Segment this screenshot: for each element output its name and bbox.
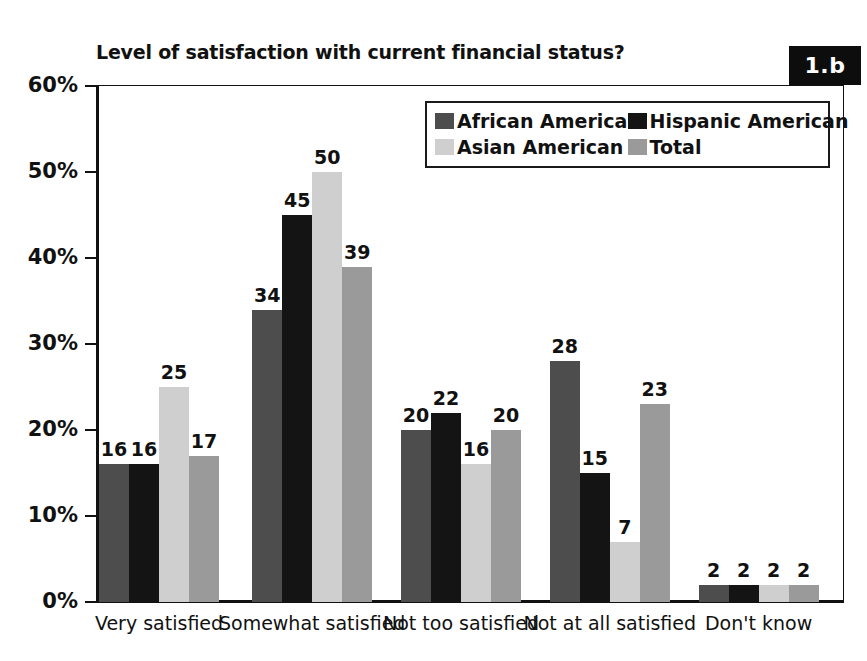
bar[interactable] [461, 464, 491, 602]
legend-item[interactable]: Asian American [435, 134, 628, 160]
y-axis-tick-label: 20% [28, 417, 78, 441]
bar[interactable] [312, 172, 342, 602]
bar-chart-figure: Level of satisfaction with current finan… [0, 0, 867, 661]
y-axis-tick-label: 60% [28, 73, 78, 97]
x-axis-category-label: Somewhat satisfied [219, 612, 405, 634]
legend-color-swatch-icon [435, 113, 454, 129]
y-axis-tick-label: 30% [28, 331, 78, 355]
legend-item[interactable]: Total [628, 134, 821, 160]
bar[interactable] [129, 464, 159, 602]
x-axis-category-label: Very satisfied [95, 612, 223, 634]
y-axis-tick-label: 0% [42, 589, 78, 613]
bar[interactable] [282, 215, 312, 602]
y-axis-tick-label: 10% [28, 503, 78, 527]
legend-item[interactable]: African American [435, 108, 628, 134]
y-axis-labels: 0%10%20%30%40%50%60% [0, 85, 96, 603]
legend-color-swatch-icon [628, 113, 647, 129]
bar[interactable] [189, 456, 219, 602]
bar[interactable] [491, 430, 521, 602]
bar[interactable] [699, 585, 729, 602]
legend-label: Asian American [457, 138, 623, 157]
bar-column: 34 [252, 86, 282, 602]
bar-column: 16 [129, 86, 159, 602]
bar-group: 16162517 [99, 86, 219, 602]
x-axis-labels: Very satisfiedSomewhat satisfiedNot too … [99, 612, 843, 652]
bar-value-label: 23 [625, 378, 685, 400]
bar[interactable] [610, 542, 640, 602]
legend-color-swatch-icon [628, 139, 647, 155]
bar-value-label: 2 [774, 559, 834, 581]
bar-value-label: 39 [327, 241, 387, 263]
bar[interactable] [342, 267, 372, 602]
x-axis-category-label: Not at all satisfied [524, 612, 697, 634]
chart-title: Level of satisfaction with current finan… [96, 41, 625, 63]
bar-value-label: 17 [174, 430, 234, 452]
bar[interactable] [252, 310, 282, 602]
bar[interactable] [729, 585, 759, 602]
bar[interactable] [759, 585, 789, 602]
legend-item[interactable]: Hispanic American [628, 108, 821, 134]
y-axis-tick-label: 50% [28, 159, 78, 183]
bar-column: 39 [342, 86, 372, 602]
x-axis-category-label: Not too satisfied [383, 612, 539, 634]
bar[interactable] [159, 387, 189, 602]
bar[interactable] [99, 464, 129, 602]
figure-number-badge: 1.b [789, 46, 861, 85]
bar-column: 25 [159, 86, 189, 602]
bar[interactable] [550, 361, 580, 602]
bar-column: 16 [99, 86, 129, 602]
x-axis-category-label: Don't know [705, 612, 812, 634]
legend-label: Total [650, 138, 702, 157]
bar[interactable] [789, 585, 819, 602]
bar-group: 34455039 [252, 86, 372, 602]
bar[interactable] [401, 430, 431, 602]
bar-column: 17 [189, 86, 219, 602]
bar-value-label: 20 [476, 404, 536, 426]
legend-label: Hispanic American [650, 112, 849, 131]
bar-column: 50 [312, 86, 342, 602]
legend-label: African American [457, 112, 641, 131]
legend-color-swatch-icon [435, 139, 454, 155]
y-axis-tick-label: 40% [28, 245, 78, 269]
bar[interactable] [640, 404, 670, 602]
chart-legend: African AmericanHispanic AmericanAsian A… [425, 101, 830, 168]
